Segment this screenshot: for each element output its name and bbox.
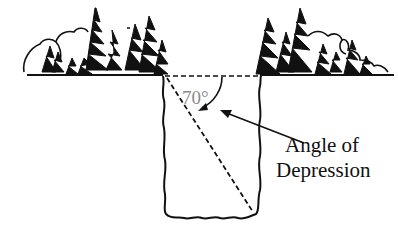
caption-line-1: Angle of xyxy=(285,133,359,157)
line-of-sight-dashed xyxy=(167,78,253,212)
angle-of-depression-diagram: 70° Angle of Depression xyxy=(0,0,398,225)
caption-line-2: Depression xyxy=(276,158,371,182)
right-trees xyxy=(256,8,372,74)
angle-value-label: 70° xyxy=(182,87,209,108)
left-trees xyxy=(42,8,168,74)
